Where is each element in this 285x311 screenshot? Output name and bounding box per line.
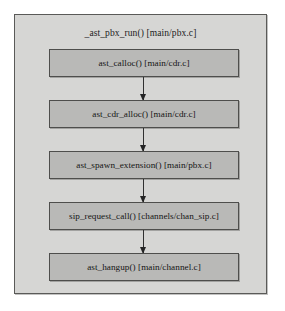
- node-label: sip_request_call() [channels/chan_sip.c]: [69, 211, 219, 221]
- connector-arrow-icon: [143, 179, 144, 202]
- node-stack: ast_calloc() [main/cdr.c] ast_cdr_alloc(…: [49, 49, 239, 281]
- flowchart-node[interactable]: ast_cdr_alloc() [main/cdr.c]: [49, 100, 239, 128]
- flowchart-diagram: _ast_pbx_run() [main/pbx.c] ast_calloc()…: [0, 0, 285, 311]
- connector-arrow-icon: [143, 230, 144, 253]
- container-title: _ast_pbx_run() [main/pbx.c]: [15, 28, 266, 38]
- flowchart-node[interactable]: ast_calloc() [main/cdr.c]: [49, 49, 239, 77]
- node-label: ast_cdr_alloc() [main/cdr.c]: [92, 109, 195, 119]
- flowchart-node[interactable]: ast_hangup() [main/channel.c]: [49, 253, 239, 281]
- flowchart-node[interactable]: sip_request_call() [channels/chan_sip.c]: [49, 202, 239, 230]
- diagram-container-frame: _ast_pbx_run() [main/pbx.c] ast_calloc()…: [14, 14, 267, 294]
- node-label: ast_calloc() [main/cdr.c]: [98, 58, 189, 68]
- node-label: ast_spawn_extension() [main/pbx.c]: [76, 160, 211, 170]
- flowchart-node[interactable]: ast_spawn_extension() [main/pbx.c]: [49, 151, 239, 179]
- connector-arrow-icon: [143, 77, 144, 100]
- node-label: ast_hangup() [main/channel.c]: [87, 262, 201, 272]
- connector-arrow-icon: [143, 128, 144, 151]
